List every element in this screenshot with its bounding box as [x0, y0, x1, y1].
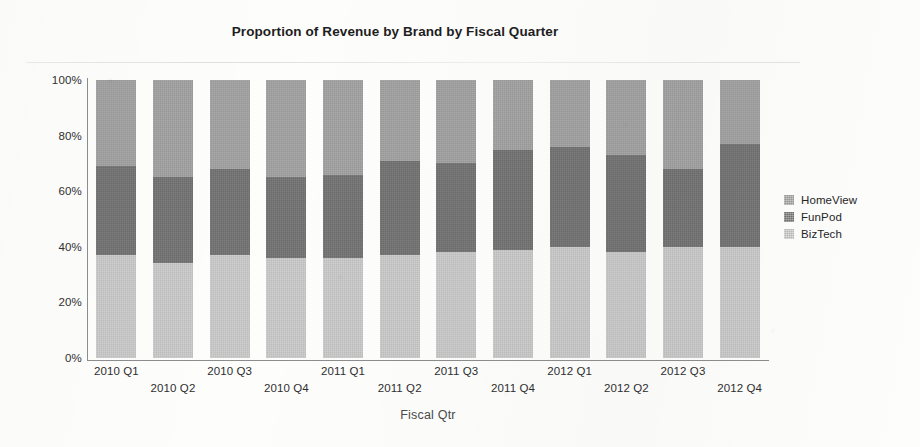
bar-segment-homeview[interactable] [153, 80, 193, 177]
legend-item[interactable]: BizTech [784, 226, 914, 242]
x-axis-tick-labels: 2010 Q12010 Q22010 Q32010 Q42011 Q12011 … [88, 362, 768, 408]
bar-segment-homeview[interactable] [380, 80, 420, 161]
scan-rule-divider [26, 62, 800, 63]
bar-segment-homeview[interactable] [323, 80, 363, 175]
bar-segment-biztech[interactable] [436, 252, 476, 358]
bar-segment-homeview[interactable] [606, 80, 646, 155]
bar-column[interactable] [266, 80, 306, 358]
x-tick-label: 2012 Q4 [717, 382, 762, 394]
bar-segment-biztech[interactable] [323, 258, 363, 358]
bar-segment-homeview[interactable] [493, 80, 533, 150]
x-tick-label: 2012 Q1 [547, 365, 592, 377]
x-axis-line [87, 360, 769, 361]
x-tick-label: 2010 Q3 [207, 365, 252, 377]
bar-column[interactable] [663, 80, 703, 358]
y-tick-label: 100% [36, 74, 82, 86]
bar-segment-homeview[interactable] [436, 80, 476, 163]
x-tick-label: 2011 Q3 [434, 365, 478, 377]
bar-column[interactable] [96, 80, 136, 358]
bar-segment-homeview[interactable] [720, 80, 760, 144]
bar-segment-funpod[interactable] [266, 177, 306, 258]
legend-swatch-icon [784, 195, 794, 205]
bar-segment-funpod[interactable] [210, 169, 250, 255]
bar-segment-funpod[interactable] [436, 163, 476, 252]
bar-segment-funpod[interactable] [550, 147, 590, 247]
bar-column[interactable] [210, 80, 250, 358]
x-tick-label: 2011 Q4 [491, 382, 535, 394]
x-tick-label: 2012 Q3 [661, 365, 706, 377]
bar-segment-funpod[interactable] [96, 166, 136, 255]
chart-container: Proportion of Revenue by Brand by Fiscal… [0, 0, 920, 447]
chart-legend: HomeViewFunPodBizTech [784, 192, 914, 243]
x-axis-title: Fiscal Qtr [88, 408, 768, 422]
x-tick-label: 2011 Q2 [378, 382, 422, 394]
bar-column[interactable] [720, 80, 760, 358]
bar-segment-biztech[interactable] [153, 263, 193, 358]
legend-label: FunPod [801, 211, 842, 223]
y-axis-tick-labels: 100%80%60%40%20%0% [30, 0, 82, 447]
bar-segment-homeview[interactable] [210, 80, 250, 169]
bar-segment-funpod[interactable] [493, 150, 533, 250]
x-tick-label: 2010 Q2 [151, 382, 196, 394]
bar-segment-biztech[interactable] [96, 255, 136, 358]
x-tick-label: 2012 Q2 [604, 382, 649, 394]
bar-segment-funpod[interactable] [153, 177, 193, 263]
bar-segment-biztech[interactable] [266, 258, 306, 358]
x-tick-label: 2010 Q1 [94, 365, 139, 377]
bar-segment-homeview[interactable] [663, 80, 703, 169]
bar-segment-biztech[interactable] [606, 252, 646, 358]
bar-segment-funpod[interactable] [606, 155, 646, 252]
legend-swatch-icon [784, 212, 794, 222]
bar-segment-homeview[interactable] [550, 80, 590, 147]
bar-segment-homeview[interactable] [96, 80, 136, 166]
bar-column[interactable] [493, 80, 533, 358]
bar-column[interactable] [153, 80, 193, 358]
bar-column[interactable] [606, 80, 646, 358]
bar-segment-funpod[interactable] [380, 161, 420, 256]
legend-item[interactable]: FunPod [784, 209, 914, 225]
bar-column[interactable] [550, 80, 590, 358]
bar-segment-homeview[interactable] [266, 80, 306, 177]
x-tick-label: 2011 Q1 [321, 365, 365, 377]
y-tick-label: 60% [36, 185, 82, 197]
bar-segment-biztech[interactable] [380, 255, 420, 358]
bar-column[interactable] [380, 80, 420, 358]
x-tick-label: 2010 Q4 [264, 382, 309, 394]
y-tick-label: 0% [36, 352, 82, 364]
y-tick-label: 40% [36, 241, 82, 253]
y-tick-label: 20% [36, 296, 82, 308]
legend-label: HomeView [801, 194, 857, 206]
bar-segment-funpod[interactable] [720, 144, 760, 247]
chart-title: Proportion of Revenue by Brand by Fiscal… [0, 24, 920, 39]
bar-segment-funpod[interactable] [663, 169, 703, 247]
plot-area [88, 80, 768, 358]
bar-segment-biztech[interactable] [550, 247, 590, 358]
bar-segment-funpod[interactable] [323, 175, 363, 258]
bar-column[interactable] [436, 80, 476, 358]
bar-column[interactable] [323, 80, 363, 358]
legend-label: BizTech [801, 228, 842, 240]
legend-swatch-icon [784, 229, 794, 239]
legend-item[interactable]: HomeView [784, 192, 914, 208]
bar-segment-biztech[interactable] [720, 247, 760, 358]
y-tick-label: 80% [36, 130, 82, 142]
bar-segment-biztech[interactable] [210, 255, 250, 358]
bar-segment-biztech[interactable] [493, 250, 533, 358]
bar-segment-biztech[interactable] [663, 247, 703, 358]
